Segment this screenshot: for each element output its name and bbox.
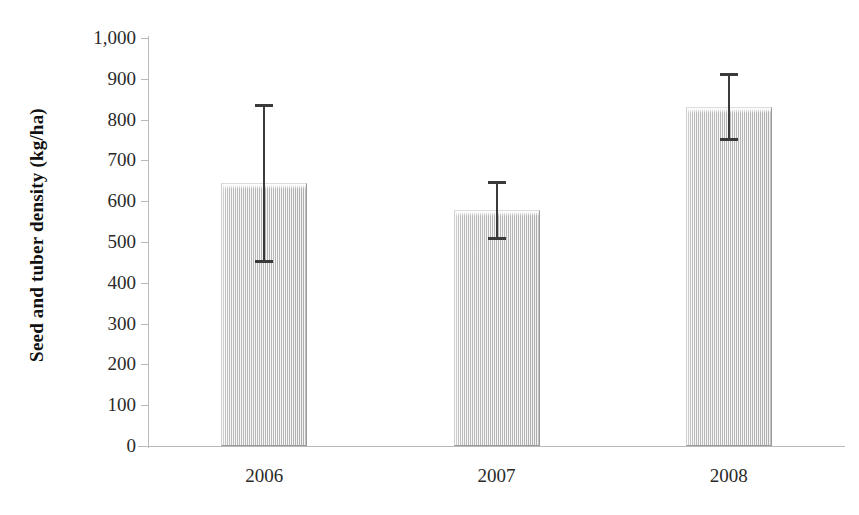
error-bar-stem-2008	[728, 73, 730, 140]
y-tick-mark	[141, 405, 148, 406]
y-axis-title: Seed and tuber density (kg/ha)	[26, 35, 48, 435]
bar-2007	[454, 210, 540, 446]
chart-figure: Seed and tuber density (kg/ha) 010020030…	[0, 0, 859, 515]
y-tick-label: 300	[56, 314, 136, 333]
y-tick-mark	[138, 446, 148, 447]
bar-2008	[686, 107, 772, 446]
y-tick-label: 600	[56, 191, 136, 210]
y-tick-mark	[141, 160, 148, 161]
y-tick-mark	[141, 79, 148, 80]
error-bar-stem-2006	[263, 104, 265, 261]
y-tick-label: 1,000	[56, 28, 136, 47]
y-tick-mark	[141, 201, 148, 202]
error-bar-cap-lower-2007	[488, 237, 506, 240]
y-tick-label: 0	[56, 436, 136, 455]
error-bar-cap-lower-2008	[720, 138, 738, 141]
y-tick-mark	[141, 364, 148, 365]
y-tick-label: 700	[56, 150, 136, 169]
error-bar-cap-upper-2006	[255, 104, 273, 107]
y-tick-label: 900	[56, 69, 136, 88]
x-tick-label-2006: 2006	[204, 465, 324, 487]
y-tick-mark	[141, 242, 148, 243]
x-axis-line	[148, 446, 845, 447]
y-tick-label: 100	[56, 395, 136, 414]
y-axis-line	[148, 36, 149, 448]
y-tick-mark	[141, 324, 148, 325]
y-tick-label: 500	[56, 232, 136, 251]
error-bar-cap-lower-2006	[255, 260, 273, 263]
y-tick-label: 400	[56, 273, 136, 292]
y-tick-label: 200	[56, 354, 136, 373]
y-tick-mark	[141, 283, 148, 284]
x-tick-label-2007: 2007	[437, 465, 557, 487]
error-bar-cap-upper-2008	[720, 73, 738, 76]
x-tick-label-2008: 2008	[669, 465, 789, 487]
y-tick-mark	[141, 120, 148, 121]
error-bar-cap-upper-2007	[488, 181, 506, 184]
y-tick-label: 800	[56, 110, 136, 129]
error-bar-stem-2007	[496, 181, 498, 239]
y-tick-mark	[141, 38, 148, 39]
